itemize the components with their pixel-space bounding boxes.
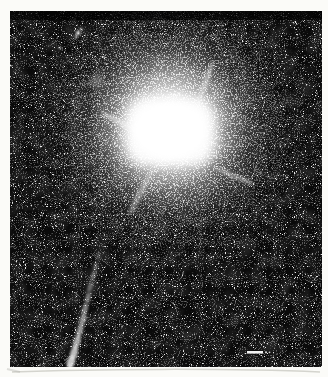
photo-canvas: Quasar with optical jet Black-and-white … <box>10 11 322 367</box>
scale-bar-line <box>247 351 263 354</box>
diffuse-galaxy-blob <box>91 76 104 89</box>
scanned-page: Quasar with optical jet Black-and-white … <box>0 0 328 377</box>
scale-bar-dot <box>265 351 267 353</box>
quasar-core-inner <box>134 103 206 157</box>
scale-bar-dot <box>269 351 271 353</box>
page-shadow-line <box>12 369 320 372</box>
quasar-core <box>124 98 216 166</box>
astronomical-photograph: Quasar with optical jet Black-and-white … <box>10 11 322 367</box>
quasar-halo-grain <box>10 11 322 367</box>
faint-star <box>59 47 62 50</box>
page-shadow-tick <box>7 369 20 372</box>
photo-top-edge-strip <box>10 11 322 20</box>
